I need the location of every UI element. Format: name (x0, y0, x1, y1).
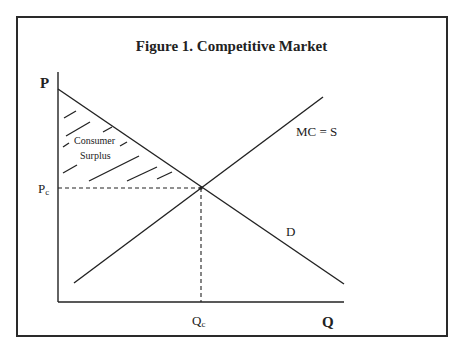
consumer-surplus-label-line1: Consumer (74, 135, 116, 146)
market-diagram: P Q Pc Qc MC = S D Consumer Surplus (0, 0, 463, 353)
quantity-equilibrium-label: Qc (192, 313, 205, 329)
price-equilibrium-sub: c (45, 187, 49, 197)
equilibrium-point (199, 186, 203, 190)
consumer-surplus-label-line2: Surplus (80, 150, 111, 161)
x-axis-label: Q (322, 314, 334, 330)
consumer-surplus-hatching (63, 111, 172, 181)
price-equilibrium-label: Pc (38, 181, 49, 197)
y-axis-label: P (40, 75, 49, 91)
demand-label: D (286, 224, 295, 239)
quantity-equilibrium-sub: c (201, 319, 205, 329)
supply-label: MC = S (296, 124, 337, 139)
price-equilibrium-main: P (38, 181, 45, 196)
